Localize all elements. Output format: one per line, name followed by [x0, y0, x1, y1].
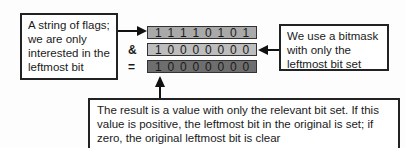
- note-line: we are only: [28, 32, 110, 46]
- note-line: zero, the original leftmost bit is clear: [97, 131, 391, 145]
- equals-operator: =: [128, 60, 135, 74]
- bit: 0: [203, 60, 213, 74]
- flags-note: A string of flags; we are only intereste…: [20, 13, 118, 80]
- bit: 0: [166, 43, 176, 57]
- bit: 0: [191, 60, 201, 74]
- bit: 0: [191, 43, 201, 57]
- bit: 0: [203, 26, 213, 40]
- bit: 0: [178, 43, 188, 57]
- mask-row: 10000000: [147, 43, 257, 56]
- result-row: 10000000: [147, 60, 257, 73]
- arrow-up-icon: [155, 76, 165, 87]
- bit: 0: [166, 60, 176, 74]
- arrow-right-icon: [137, 26, 147, 36]
- bit: 1: [216, 26, 226, 40]
- bit: 1: [178, 26, 188, 40]
- note-line: interested in the: [28, 46, 110, 60]
- note-line: A string of flags;: [28, 18, 110, 32]
- bit: 0: [203, 43, 213, 57]
- bit: 0: [228, 26, 238, 40]
- bit: 1: [153, 60, 163, 74]
- bit: 0: [241, 43, 251, 57]
- bit: 0: [216, 43, 226, 57]
- bit: 1: [191, 26, 201, 40]
- bitmask-note: We use a bitmask with only the leftmost …: [279, 24, 389, 71]
- result-note: The result is a value with only the rele…: [88, 98, 400, 148]
- note-line: leftmost bit set: [287, 57, 381, 71]
- note-line: The result is a value with only the rele…: [97, 103, 391, 117]
- note-line: leftmost bit: [28, 60, 110, 74]
- note-line: We use a bitmask: [287, 29, 381, 43]
- bit: 0: [178, 60, 188, 74]
- bit: 1: [241, 26, 251, 40]
- bit: 1: [153, 43, 163, 57]
- and-operator: &: [128, 43, 137, 57]
- bit: 0: [216, 60, 226, 74]
- bit: 0: [228, 43, 238, 57]
- bit: 0: [228, 60, 238, 74]
- note-line: with only the: [287, 43, 381, 57]
- bit: 0: [241, 60, 251, 74]
- bit: 1: [166, 26, 176, 40]
- bit: 1: [153, 26, 163, 40]
- note-line: value is positive, the leftmost bit in t…: [97, 117, 391, 131]
- arrow-left-icon: [258, 45, 268, 55]
- flags-row: 11110101: [147, 26, 257, 39]
